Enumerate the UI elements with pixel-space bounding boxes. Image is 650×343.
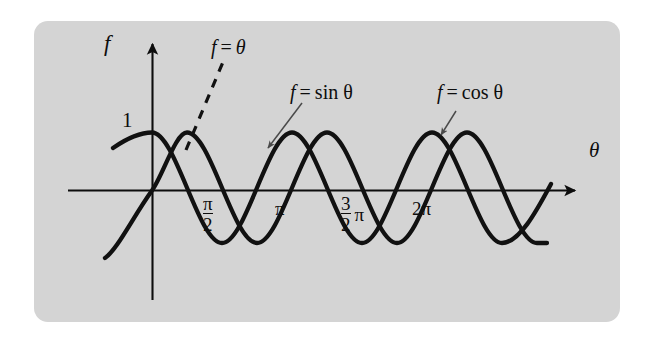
sine-label-lhs: f bbox=[290, 82, 296, 102]
x-tick-two-pi: 2π bbox=[412, 199, 431, 218]
cosine-label-eq: = bbox=[447, 82, 458, 102]
sine-annotation-arrow bbox=[268, 103, 302, 148]
y-axis-label: f bbox=[104, 32, 110, 55]
identity-dashed-line bbox=[186, 62, 223, 150]
figure-page: f θ 1 π 2 π 3 2 π 2π f = θ f = sin θ bbox=[0, 0, 650, 343]
cosine-annotation-arrow bbox=[441, 111, 456, 135]
identity-curve-label: f = θ bbox=[211, 37, 246, 57]
trig-plot-svg bbox=[0, 0, 650, 343]
sine-label-eq: = bbox=[300, 82, 311, 102]
cosine-label-lhs: f bbox=[437, 82, 443, 102]
x-tick-pi: π bbox=[275, 199, 285, 218]
x-tick-pi-over-2: π 2 bbox=[203, 194, 213, 235]
sine-label-rhs: sin θ bbox=[315, 82, 353, 102]
cosine-curve-label: f = cos θ bbox=[437, 82, 503, 102]
identity-label-eq: = bbox=[221, 37, 232, 57]
sine-curve bbox=[105, 133, 547, 259]
identity-label-rhs: θ bbox=[236, 37, 246, 57]
cosine-label-rhs: cos θ bbox=[462, 82, 503, 102]
sine-curve-label: f = sin θ bbox=[290, 82, 353, 102]
x-tick-three-halves-pi: 3 2 π bbox=[341, 194, 364, 235]
three-halves-pi-suffix: π bbox=[355, 205, 365, 224]
identity-label-lhs: f bbox=[211, 37, 217, 57]
fraction-three-halves: 3 2 bbox=[341, 194, 351, 235]
x-axis-label: θ bbox=[589, 140, 599, 161]
y-tick-label-1: 1 bbox=[122, 110, 133, 131]
fraction-pi-over-2: π 2 bbox=[203, 194, 213, 235]
